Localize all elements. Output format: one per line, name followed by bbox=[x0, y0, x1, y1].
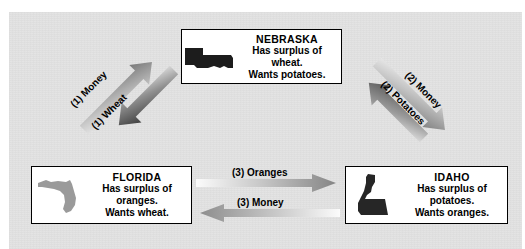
florida-surplus-item: oranges. bbox=[86, 195, 188, 207]
nebraska-text-block: NEBRASKA Has surplus of wheat. Wants pot… bbox=[236, 33, 341, 81]
state-box-nebraska[interactable]: NEBRASKA Has surplus of wheat. Wants pot… bbox=[181, 29, 342, 84]
idaho-state-map-icon bbox=[346, 173, 400, 217]
state-name-nebraska: NEBRASKA bbox=[236, 33, 338, 45]
florida-state-map-icon bbox=[32, 175, 86, 215]
nebraska-surplus-line: Has surplus of bbox=[236, 45, 338, 57]
idaho-surplus-line: Has surplus of bbox=[400, 183, 504, 195]
idaho-text-block: IDAHO Has surplus of potatoes. Wants ora… bbox=[400, 171, 507, 219]
idaho-surplus-item: potatoes. bbox=[400, 195, 504, 207]
arrow-label-money-3: (3) Money bbox=[237, 197, 284, 208]
nebraska-surplus-item: wheat. bbox=[236, 57, 338, 69]
state-name-florida: FLORIDA bbox=[86, 171, 188, 183]
state-box-idaho[interactable]: IDAHO Has surplus of potatoes. Wants ora… bbox=[345, 166, 508, 224]
florida-wants-line: Wants wheat. bbox=[86, 207, 188, 219]
florida-surplus-line: Has surplus of bbox=[86, 183, 188, 195]
florida-text-block: FLORIDA Has surplus of oranges. Wants wh… bbox=[86, 171, 191, 219]
idaho-wants-line: Wants oranges. bbox=[400, 207, 504, 219]
arrow-wheat-1 bbox=[84, 48, 196, 160]
diagram-canvas: (1) Money (1) Wheat bbox=[0, 0, 525, 249]
arrow-label-oranges-3: (3) Oranges bbox=[232, 167, 288, 178]
state-box-florida[interactable]: FLORIDA Has surplus of oranges. Wants wh… bbox=[31, 166, 192, 224]
nebraska-state-map-icon bbox=[182, 42, 236, 72]
arrow-potatoes-2 bbox=[334, 48, 446, 160]
nebraska-wants-line: Wants potatoes. bbox=[236, 69, 338, 81]
state-name-idaho: IDAHO bbox=[400, 171, 504, 183]
